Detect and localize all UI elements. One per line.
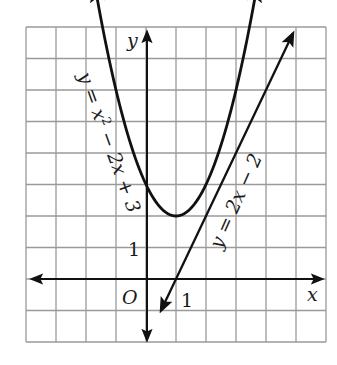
y-tick-1-label: 1 (128, 238, 140, 260)
line-curve (161, 33, 293, 310)
y-axis-label: y (126, 29, 138, 51)
origin-label: O (122, 286, 138, 308)
x-axis-label: x (307, 283, 318, 305)
parabola-label-pre: y = x (74, 68, 112, 123)
grid-lines (26, 27, 326, 342)
x-tick-1-label: 1 (181, 289, 193, 311)
parabola-label-post: − 2x + 3 (94, 122, 146, 215)
graph-figure: y x O 1 1 y = x2 − 2x + 3 y = 2x − 2 (0, 0, 337, 365)
